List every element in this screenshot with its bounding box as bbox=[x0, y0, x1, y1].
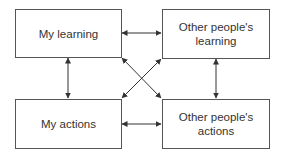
node-label: My learning bbox=[39, 27, 98, 41]
node-my-learning: My learning bbox=[15, 9, 122, 58]
node-label: Other people's actions bbox=[176, 110, 256, 138]
node-label: My actions bbox=[41, 117, 96, 131]
node-others-learning: Other people's learning bbox=[162, 9, 270, 59]
node-label: Other people's learning bbox=[176, 20, 256, 48]
node-my-actions: My actions bbox=[15, 99, 122, 149]
node-others-actions: Other people's actions bbox=[162, 99, 270, 149]
